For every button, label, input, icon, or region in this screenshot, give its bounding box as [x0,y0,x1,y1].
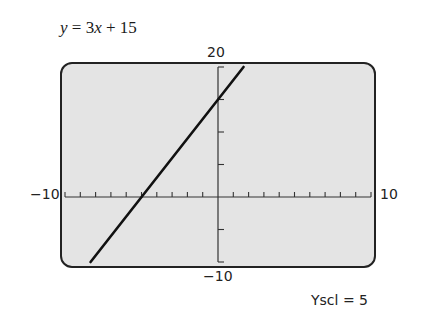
y-max-label: 20 [207,44,225,60]
x-min-label: −10 [30,186,60,202]
y-min-label: −10 [203,268,233,284]
x-max-label: 10 [380,186,398,202]
yscl-label: Yscl = 5 [311,292,368,308]
